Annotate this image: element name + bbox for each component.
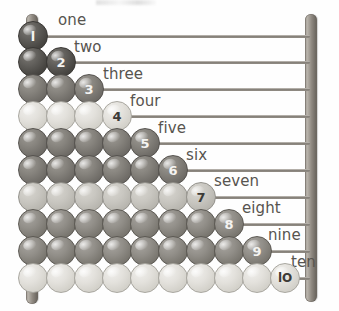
bead-highlight-icon — [50, 157, 66, 171]
bead-numeral-8: 8 — [215, 210, 243, 238]
bead-highlight-icon — [22, 76, 38, 90]
bead-numeral-9: 9 — [243, 237, 271, 265]
bead-highlight-icon — [162, 211, 178, 225]
bead-highlight-icon — [190, 211, 206, 225]
bead-row4-1[interactable] — [18, 101, 48, 131]
bead-numeral-5: 5 — [131, 129, 159, 157]
bead-highlight-icon — [190, 238, 206, 252]
bead-highlight-icon — [50, 76, 66, 90]
bead-highlight-icon — [106, 265, 122, 279]
bead-row8-6[interactable] — [158, 209, 188, 239]
bead-highlight-icon — [106, 157, 122, 171]
bead-highlight-icon — [22, 130, 38, 144]
bead-highlight-icon — [190, 265, 206, 279]
bead-highlight-icon — [78, 238, 94, 252]
bead-row7-1[interactable] — [18, 182, 48, 212]
bead-highlight-icon — [50, 184, 66, 198]
bead-row3-2[interactable] — [46, 74, 76, 104]
bead-row9-7[interactable] — [186, 236, 216, 266]
bead-row3-1[interactable] — [18, 74, 48, 104]
bead-row10-9[interactable] — [242, 263, 272, 293]
bead-highlight-icon — [78, 184, 94, 198]
bead-row9-5[interactable] — [130, 236, 160, 266]
abacus-image: l23456789lO onetwothreefourfivesixsevene… — [0, 0, 339, 311]
numbered-bead-10[interactable]: lO — [270, 263, 300, 293]
bead-numeral-1: l — [19, 22, 47, 50]
bead-highlight-icon — [134, 238, 150, 252]
bead-highlight-icon — [106, 238, 122, 252]
bead-row9-3[interactable] — [74, 236, 104, 266]
bead-highlight-icon — [22, 265, 38, 279]
rod-1 — [30, 35, 310, 38]
bead-row6-2[interactable] — [46, 155, 76, 185]
bead-numeral-7: 7 — [187, 183, 215, 211]
bead-highlight-icon — [22, 157, 38, 171]
bead-row6-1[interactable] — [18, 155, 48, 185]
bead-row10-6[interactable] — [158, 263, 188, 293]
bead-row10-5[interactable] — [130, 263, 160, 293]
bead-row7-2[interactable] — [46, 182, 76, 212]
bead-highlight-icon — [78, 103, 94, 117]
bead-row5-1[interactable] — [18, 128, 48, 158]
bead-row7-3[interactable] — [74, 182, 104, 212]
bead-highlight-icon — [134, 211, 150, 225]
bead-row8-4[interactable] — [102, 209, 132, 239]
number-word-1: one — [58, 11, 86, 29]
bead-highlight-icon — [162, 184, 178, 198]
bead-row8-5[interactable] — [130, 209, 160, 239]
numbered-bead-4[interactable]: 4 — [102, 101, 132, 131]
bead-highlight-icon — [50, 238, 66, 252]
bead-row8-7[interactable] — [186, 209, 216, 239]
bead-row9-2[interactable] — [46, 236, 76, 266]
bead-row2-1[interactable] — [18, 47, 48, 77]
bead-highlight-icon — [134, 184, 150, 198]
bead-row9-4[interactable] — [102, 236, 132, 266]
bead-row8-3[interactable] — [74, 209, 104, 239]
bead-row5-2[interactable] — [46, 128, 76, 158]
bead-highlight-icon — [162, 238, 178, 252]
bead-row8-1[interactable] — [18, 209, 48, 239]
bead-highlight-icon — [22, 211, 38, 225]
bead-row10-2[interactable] — [46, 263, 76, 293]
numbered-bead-5[interactable]: 5 — [130, 128, 160, 158]
bead-highlight-icon — [50, 103, 66, 117]
bead-highlight-icon — [106, 130, 122, 144]
bead-row4-2[interactable] — [46, 101, 76, 131]
bead-highlight-icon — [246, 265, 262, 279]
number-word-9: nine — [268, 226, 301, 244]
bead-row9-6[interactable] — [158, 236, 188, 266]
bead-highlight-icon — [106, 211, 122, 225]
numbered-bead-2[interactable]: 2 — [46, 47, 76, 77]
bead-highlight-icon — [50, 130, 66, 144]
bead-row8-2[interactable] — [46, 209, 76, 239]
bead-row10-1[interactable] — [18, 263, 48, 293]
numbered-bead-7[interactable]: 7 — [186, 182, 216, 212]
bead-highlight-icon — [22, 238, 38, 252]
bead-row6-4[interactable] — [102, 155, 132, 185]
bead-row10-3[interactable] — [74, 263, 104, 293]
bead-highlight-icon — [134, 157, 150, 171]
numbered-bead-8[interactable]: 8 — [214, 209, 244, 239]
bead-row9-1[interactable] — [18, 236, 48, 266]
bead-row4-3[interactable] — [74, 101, 104, 131]
bead-row10-8[interactable] — [214, 263, 244, 293]
bead-highlight-icon — [78, 211, 94, 225]
bead-row5-4[interactable] — [102, 128, 132, 158]
bead-row10-7[interactable] — [186, 263, 216, 293]
bead-numeral-10: lO — [271, 264, 299, 292]
numbered-bead-6[interactable]: 6 — [158, 155, 188, 185]
numbered-bead-3[interactable]: 3 — [74, 74, 104, 104]
bead-row5-3[interactable] — [74, 128, 104, 158]
bead-highlight-icon — [78, 265, 94, 279]
bead-row10-4[interactable] — [102, 263, 132, 293]
bead-row9-8[interactable] — [214, 236, 244, 266]
bead-numeral-6: 6 — [159, 156, 187, 184]
bead-highlight-icon — [218, 265, 234, 279]
bead-row7-6[interactable] — [158, 182, 188, 212]
bead-row7-4[interactable] — [102, 182, 132, 212]
bead-row6-5[interactable] — [130, 155, 160, 185]
number-word-6: six — [186, 146, 207, 164]
bead-row6-3[interactable] — [74, 155, 104, 185]
numbered-bead-9[interactable]: 9 — [242, 236, 272, 266]
bead-row7-5[interactable] — [130, 182, 160, 212]
